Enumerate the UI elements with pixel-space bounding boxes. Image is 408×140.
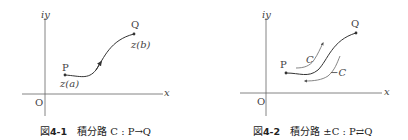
contour-c: [65, 34, 134, 77]
caption-number: 4-2: [263, 126, 280, 137]
point-q: [133, 33, 136, 36]
point-p-label: P: [280, 60, 287, 70]
point-p: [285, 72, 288, 75]
figure-4-2: iy x O P Q C −C 図4-2積分路 ±C : P⇄Q: [204, 0, 408, 140]
origin-label: O: [35, 98, 43, 108]
z-b-label: z(b): [131, 40, 150, 50]
figure-caption: 図4-1積分路 C : P→Q: [40, 123, 151, 138]
path-c-label: C: [306, 55, 314, 65]
point-p: [64, 74, 67, 77]
point-q: [355, 32, 358, 35]
caption-prefix: 図: [253, 126, 263, 137]
contour-diagram-2: [204, 0, 408, 140]
point-q-label: Q: [351, 19, 359, 29]
caption-prefix: 図: [40, 126, 50, 137]
caption-text: 積分路 ±C : P⇄Q: [290, 126, 372, 137]
point-q-label: Q: [131, 20, 139, 30]
x-axis-label: x: [164, 88, 170, 98]
direction-arrow-icon: [96, 62, 101, 70]
y-axis-label: iy: [262, 10, 271, 20]
path-minus-c-label: −C: [330, 68, 346, 78]
caption-text: 積分路 C : P→Q: [77, 126, 151, 137]
y-axis-label: iy: [41, 10, 50, 20]
x-axis-label: x: [384, 87, 390, 97]
figure-caption: 図4-2積分路 ±C : P⇄Q: [253, 123, 372, 138]
origin-label: O: [257, 97, 265, 107]
z-a-label: z(a): [60, 79, 79, 89]
figure-4-1: iy x O P Q z(a) z(b) 図4-1積分路 C : P→Q: [0, 0, 204, 140]
caption-number: 4-1: [50, 126, 67, 137]
point-p-label: P: [62, 63, 69, 73]
contour-diagram-1: [0, 0, 204, 140]
